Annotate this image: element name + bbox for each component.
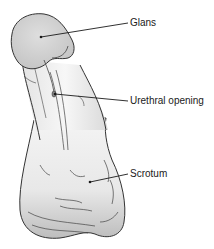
anatomy-illustration <box>0 0 214 249</box>
urethral-opening-label: Urethral opening <box>130 96 204 106</box>
glans-label: Glans <box>130 18 156 28</box>
scrotum-label: Scrotum <box>130 169 167 179</box>
anatomy-diagram: Glans Urethral opening Scrotum <box>0 0 214 249</box>
